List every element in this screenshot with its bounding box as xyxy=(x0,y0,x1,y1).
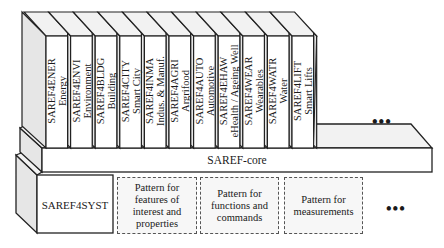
extension-name: Argrifood xyxy=(180,70,191,112)
extension-name: Building xyxy=(106,73,117,110)
extension-name: Wearables xyxy=(254,69,265,112)
more-extensions-ellipsis: ••• xyxy=(372,117,392,127)
extension-code: SAREF4AUTO xyxy=(194,58,205,125)
extension-name: Indus. & Manuf. xyxy=(155,56,166,126)
extension-name: Energy xyxy=(57,76,68,106)
extension-label: SAREF4AGRIArgrifood xyxy=(168,36,192,146)
saref-core-label: SAREF-core xyxy=(42,148,432,172)
extension-code: SAREF4EHAW xyxy=(218,57,229,126)
saref4syst-label: SAREF4SYST xyxy=(37,176,113,233)
extension-code: SAREF4CITY xyxy=(120,60,131,122)
extension-code: SAREF4WATR xyxy=(267,58,278,125)
extension-label: SAREF4LIFTSmart Lifts xyxy=(291,36,315,146)
extension-code: SAREF4WEAR xyxy=(243,57,254,126)
extension-name: Water xyxy=(278,79,289,104)
extension-label: SAREF4BLDGBuilding xyxy=(94,36,118,146)
pattern-features-of-interest: Pattern for features of interest and pro… xyxy=(117,177,197,234)
extension-code: SAREF4ENER xyxy=(46,58,57,123)
extension-name: eHealth / Ageing Well xyxy=(229,44,240,137)
extension-name: Environment xyxy=(82,64,93,119)
extension-label: SAREF4AUTOAutomotive xyxy=(193,36,217,146)
extension-label: SAREF4ENEREnergy xyxy=(45,36,69,146)
more-patterns-ellipsis: ••• xyxy=(386,204,406,214)
extension-name: Smart City xyxy=(131,68,142,114)
extension-code: SAREF4LIFT xyxy=(292,61,303,121)
extension-name: Automotive xyxy=(205,66,216,116)
extension-label: SAREF4EHAWeHealth / Ageing Well xyxy=(217,36,241,146)
extension-label: SAREF4WATRWater xyxy=(266,36,290,146)
extension-code: SAREF4INMA xyxy=(144,58,155,124)
extension-code: SAREF4AGRI xyxy=(169,59,180,123)
extension-label: SAREF4CITYSmart City xyxy=(119,36,143,146)
extension-label: SAREF4WEARWearables xyxy=(242,36,266,146)
pattern-functions-commands: Pattern for functions and commands xyxy=(200,177,279,234)
extension-name: Smart Lifts xyxy=(303,67,314,115)
extension-code: SAREF4ENVI xyxy=(71,60,82,123)
extension-label: SAREF4ENVIEnvironment xyxy=(70,36,94,146)
pattern-measurements: Pattern for measurements xyxy=(284,177,363,234)
extension-label: SAREF4INMAIndus. & Manuf. xyxy=(143,36,167,146)
extension-code: SAREF4BLDG xyxy=(95,58,106,125)
